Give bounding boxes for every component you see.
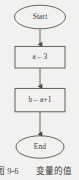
assign-a-node-label: a←3	[15, 53, 65, 60]
figure-caption: 图 9-6 变量的值	[0, 165, 79, 180]
figure-caption-number: 图 9-6	[0, 165, 19, 178]
end-node-label: End	[16, 143, 64, 150]
flowchart-figure: Start a←3 b←a+1 End 图 9-6 变量的值	[0, 0, 79, 180]
start-node-label: Start	[14, 13, 66, 20]
flowchart-canvas	[0, 0, 79, 180]
figure-caption-text: 变量的值	[36, 165, 72, 178]
assign-b-node-label: b←a+1	[15, 96, 65, 103]
